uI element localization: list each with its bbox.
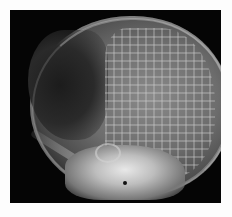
xray-image: Grayscale radiograph of a skull in later… [10, 10, 221, 203]
skull-base [65, 145, 185, 200]
dark-spot [123, 181, 127, 185]
sella-turcica [95, 143, 121, 163]
